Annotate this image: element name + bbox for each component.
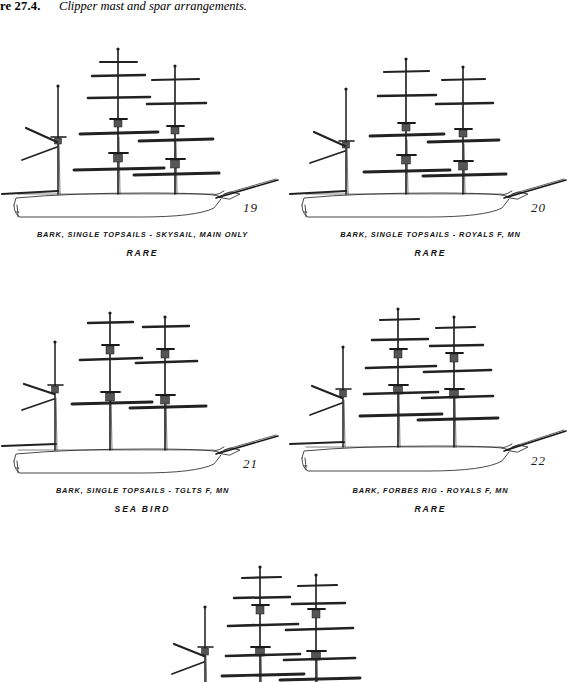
ship-rig-caption-22: BARK, FORBES RIG - ROYALS F, MN — [288, 486, 569, 495]
ship-diagram-21: 21 BARK, SINGLE TOPSAILS - TGLTS F, MN S… — [0, 298, 285, 548]
ship-diagram-partial — [150, 548, 435, 682]
ship-name-caption-20: RARE — [288, 248, 569, 258]
ship-drawing-22 — [288, 298, 569, 483]
ship-rig-caption-21: BARK, SINGLE TOPSAILS - TGLTS F, MN — [0, 486, 285, 495]
ship-rig-caption-20: BARK, SINGLE TOPSAILS - ROYALS F, MN — [288, 230, 569, 239]
ship-drawing-20 — [288, 42, 569, 227]
ship-diagram-19: 19 BARK, SINGLE TOPSAILS - SKYSAIL, MAIN… — [0, 42, 285, 292]
ship-diagram-22: 22 BARK, FORBES RIG - ROYALS F, MN RARE — [288, 298, 569, 548]
ship-diagram-20: 20 BARK, SINGLE TOPSAILS - ROYALS F, MN … — [288, 42, 569, 292]
figure-number: re 27.4. — [0, 0, 41, 13]
ship-name-caption-22: RARE — [288, 504, 569, 514]
figure-caption: re 27.4. Clipper mast and spar arrangeme… — [0, 0, 569, 14]
ship-number-20: 20 — [531, 200, 546, 216]
ship-number-21: 21 — [243, 456, 258, 472]
ship-name-caption-19: RARE — [0, 248, 285, 258]
figure-caption-text: Clipper mast and spar arrangements. — [59, 0, 247, 13]
ship-rig-caption-19: BARK, SINGLE TOPSAILS - SKYSAIL, MAIN ON… — [0, 230, 285, 239]
ship-name-caption-21: SEA BIRD — [0, 504, 285, 514]
ship-number-19: 19 — [243, 200, 258, 216]
ship-drawing-partial — [150, 548, 435, 682]
ship-number-22: 22 — [531, 453, 546, 469]
